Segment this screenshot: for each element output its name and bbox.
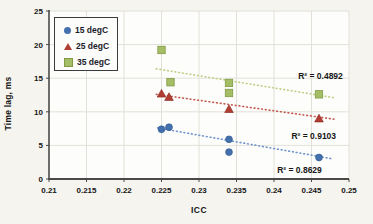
y-tick-label: 25 [34, 7, 43, 16]
x-tick-label: 0.235 [226, 186, 247, 195]
data-point [225, 89, 232, 96]
legend: 15 degC 25 degC 35 degC [54, 17, 118, 71]
y-tick-label: 15 [34, 74, 43, 83]
x-tick-label: 0.25 [341, 186, 357, 195]
x-axis-title: ICC [169, 205, 229, 215]
data-point [158, 46, 165, 53]
legend-label: 35 degC [77, 57, 110, 67]
data-point [226, 149, 233, 156]
x-tick-label: 0.215 [76, 186, 97, 195]
data-point [158, 126, 165, 133]
legend-label: 25 degC [76, 41, 109, 51]
y-tick-label: 20 [34, 41, 43, 50]
x-tick-label: 0.23 [191, 186, 207, 195]
y-tick-label: 5 [39, 141, 44, 150]
data-point [315, 91, 322, 98]
legend-item-35degC: 35 degC [64, 54, 117, 70]
scatter-chart-figure: R² = 0.8629R² = 0.9103R² = 0.48920.210.2… [0, 0, 373, 224]
data-point [166, 124, 173, 131]
legend-item-25degC: 25 degC [64, 38, 117, 54]
x-tick-label: 0.22 [116, 186, 132, 195]
data-point [167, 79, 174, 86]
x-tick-label: 0.245 [301, 186, 322, 195]
r-squared-label: R² = 0.8629 [277, 165, 322, 175]
data-point [316, 154, 323, 161]
triangle-marker-icon [64, 43, 72, 50]
x-tick-label: 0.225 [151, 186, 172, 195]
square-marker-icon [64, 58, 73, 67]
legend-item-15degC: 15 degC [64, 22, 117, 38]
data-point [225, 79, 232, 86]
data-point [226, 136, 233, 143]
circle-marker-icon [64, 27, 71, 34]
r-squared-label: R² = 0.9103 [291, 131, 336, 141]
y-axis-title: Time lag, ms [3, 54, 16, 154]
x-tick-label: 0.24 [266, 186, 282, 195]
y-tick-label: 0 [39, 175, 44, 184]
x-tick-label: 0.21 [41, 186, 57, 195]
y-tick-label: 10 [34, 108, 43, 117]
r-squared-label: R² = 0.4892 [298, 71, 343, 81]
legend-label: 15 degC [75, 25, 108, 35]
